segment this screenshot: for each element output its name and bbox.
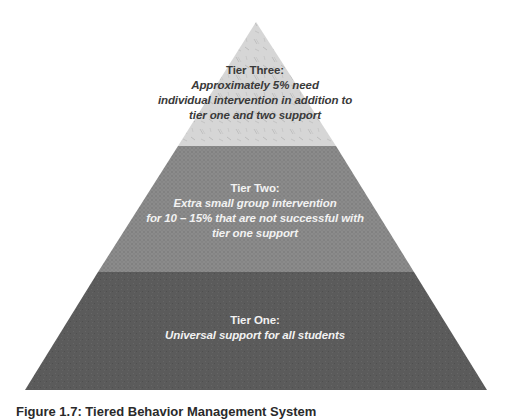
figure-caption: Figure 1.7: Tiered Behavior Management S… <box>16 404 316 419</box>
tier-two-label: Tier Two: Extra small group intervention… <box>0 181 510 241</box>
tier-one-label: Tier One: Universal support for all stud… <box>0 313 510 343</box>
tier-three-label: Tier Three: Approximately 5% need indivi… <box>0 63 510 123</box>
tier-two-line: tier one support <box>0 226 510 241</box>
tier-two-line: for 10 – 15% that are not successful wit… <box>0 211 510 226</box>
tier-one-title: Tier One: <box>0 313 510 328</box>
tier-three-line: tier one and two support <box>0 108 510 123</box>
tier-one-line: Universal support for all students <box>0 328 510 343</box>
tier-two-title: Tier Two: <box>0 181 510 196</box>
tier-three-line: Approximately 5% need <box>0 78 510 93</box>
tier-three-title: Tier Three: <box>0 63 510 78</box>
tier-two-line: Extra small group intervention <box>0 196 510 211</box>
tier-three-line: individual intervention in addition to <box>0 93 510 108</box>
